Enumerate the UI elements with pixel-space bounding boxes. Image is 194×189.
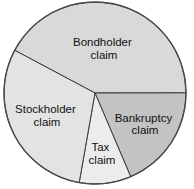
slice-label-tax: Tax claim (89, 141, 116, 166)
slice-label-bondholder-line2: claim (91, 49, 118, 61)
slice-label-stockholder-line2: claim (34, 116, 61, 128)
slice-label-bankruptcy-line1: Bankruptcy (115, 112, 173, 124)
slice-label-tax-line1: Tax (91, 141, 109, 153)
slice-label-tax-line2: claim (89, 154, 116, 166)
slice-label-stockholder-line1: Stockholder (15, 103, 76, 115)
slice-label-bondholder-line1: Bondholder (73, 36, 132, 48)
pie-chart: Bondholder claim Bankruptcy claim Tax cl… (0, 0, 194, 189)
slice-label-bankruptcy-line2: claim (132, 124, 159, 136)
